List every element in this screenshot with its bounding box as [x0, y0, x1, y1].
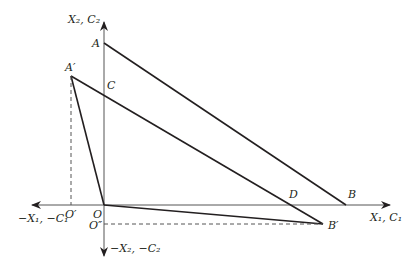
segment-A-B	[104, 43, 346, 205]
segment-O-Bprime	[104, 205, 323, 224]
segment-Aprime-Bprime	[71, 76, 323, 224]
label-point-Aprime: A′	[64, 61, 76, 74]
diagram-canvas: X₂, C₂ X₁, C₁ −X₁, −C₁ −X₂, −C₂ A A′ C D…	[0, 0, 417, 273]
label-y-positive: X₂, C₂	[67, 13, 100, 26]
label-point-B: B	[347, 188, 356, 201]
label-point-C: C	[107, 79, 116, 92]
label-x-negative: −X₁, −C₁	[18, 212, 69, 225]
segment-Aprime-O	[71, 76, 104, 205]
label-x-positive: X₁, C₁	[369, 211, 402, 224]
label-point-D: D	[288, 188, 298, 201]
label-point-Oprime: O′	[65, 208, 77, 221]
label-point-A: A	[91, 37, 100, 50]
label-point-Bprime: B′	[327, 219, 339, 232]
label-y-negative: −X₂, −C₂	[110, 242, 161, 255]
label-point-Odoubleprime: O″	[89, 219, 103, 232]
